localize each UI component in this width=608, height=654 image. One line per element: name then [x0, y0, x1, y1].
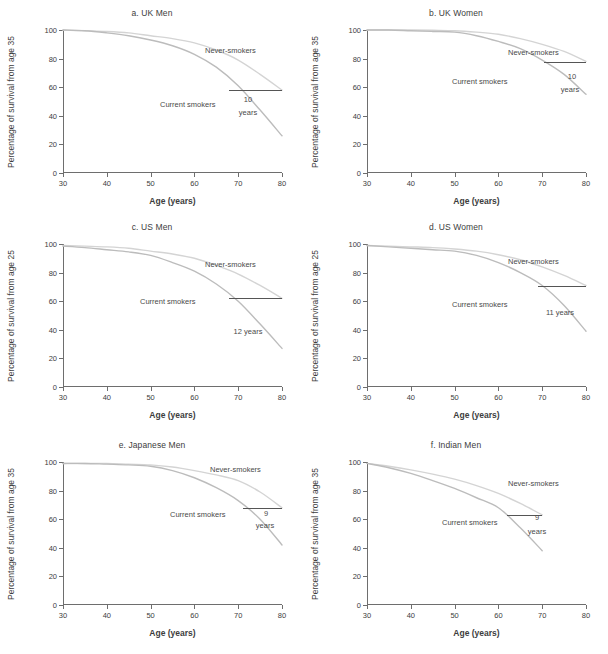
- x-tick-label-a-30: 30: [59, 179, 67, 188]
- x-tick-d-70: [542, 387, 543, 391]
- x-tick-b-70: [542, 173, 543, 177]
- y-tick-label-a-0: 0: [53, 169, 57, 178]
- x-tick-b-40: [411, 173, 412, 177]
- x-tick-label-f-70: 70: [538, 611, 546, 620]
- x-tick-d-60: [498, 387, 499, 391]
- x-tick-label-d-50: 50: [450, 393, 458, 402]
- x-tick-a-30: [63, 173, 64, 177]
- x-tick-label-e-60: 60: [190, 611, 198, 620]
- y-tick-label-c-40: 40: [49, 325, 57, 334]
- x-tick-b-30: [367, 173, 368, 177]
- y-tick-label-c-80: 80: [49, 268, 57, 277]
- panel-f: f. Indian MenPercentage of survival from…: [304, 432, 608, 650]
- x-tick-label-d-30: 30: [363, 393, 371, 402]
- y-tick-label-e-60: 60: [49, 515, 57, 524]
- x-tick-d-30: [367, 387, 368, 391]
- x-tick-e-60: [194, 605, 195, 609]
- annotation-gap-years-d: 11 years: [546, 308, 574, 317]
- x-tick-d-80: [586, 387, 587, 391]
- x-tick-label-c-70: 70: [234, 393, 242, 402]
- panel-title-c: c. US Men: [0, 222, 304, 232]
- x-tick-c-60: [194, 387, 195, 391]
- y-tick-label-e-100: 100: [44, 458, 57, 467]
- y-tick-label-b-0: 0: [357, 169, 361, 178]
- x-tick-a-80: [282, 173, 283, 177]
- x-tick-label-f-40: 40: [407, 611, 415, 620]
- y-tick-label-c-0: 0: [53, 383, 57, 392]
- x-tick-e-40: [107, 605, 108, 609]
- x-tick-label-b-50: 50: [450, 179, 458, 188]
- plot-area-e: 020406080100304050607080: [63, 462, 282, 605]
- x-tick-f-70: [542, 605, 543, 609]
- annotation-never-smokers-f: Never-smokers: [508, 479, 559, 488]
- x-tick-f-50: [455, 605, 456, 609]
- x-tick-f-40: [411, 605, 412, 609]
- gap-indicator-line-c: [229, 298, 282, 299]
- x-tick-label-c-60: 60: [190, 393, 198, 402]
- gap-indicator-line-a: [229, 90, 282, 91]
- y-tick-label-f-40: 40: [353, 543, 361, 552]
- x-tick-label-e-50: 50: [146, 611, 154, 620]
- panel-b: b. UK WomenPercentage of survival from a…: [304, 0, 608, 218]
- y-tick-label-a-40: 40: [49, 111, 57, 120]
- y-tick-label-e-80: 80: [49, 486, 57, 495]
- annotation-never-smokers-e: Never-smokers: [210, 465, 261, 474]
- y-tick-label-a-20: 20: [49, 140, 57, 149]
- y-axis-label-f: Percentage of survival from age 35: [309, 462, 321, 605]
- y-tick-label-b-100: 100: [348, 26, 361, 35]
- x-tick-label-b-30: 30: [363, 179, 371, 188]
- x-tick-d-50: [455, 387, 456, 391]
- y-tick-label-b-40: 40: [353, 111, 361, 120]
- x-tick-label-a-40: 40: [103, 179, 111, 188]
- y-tick-label-f-80: 80: [353, 486, 361, 495]
- x-tick-label-b-70: 70: [538, 179, 546, 188]
- annotation-gap-unit-e: years: [256, 521, 274, 530]
- x-tick-label-e-70: 70: [234, 611, 242, 620]
- panel-title-e: e. Japanese Men: [0, 440, 304, 450]
- annotation-current-smokers-a: Current smokers: [160, 100, 215, 109]
- x-tick-e-80: [282, 605, 283, 609]
- annotation-gap-years-b: 10: [568, 72, 576, 81]
- y-tick-label-a-80: 80: [49, 54, 57, 63]
- annotation-current-smokers-f: Current smokers: [442, 518, 497, 527]
- annotation-gap-years-f: 9: [535, 513, 539, 522]
- y-tick-label-d-20: 20: [353, 354, 361, 363]
- curve-e-current-smokers: [63, 463, 282, 545]
- x-tick-f-80: [586, 605, 587, 609]
- y-tick-label-c-20: 20: [49, 354, 57, 363]
- y-tick-label-d-60: 60: [353, 297, 361, 306]
- x-tick-label-c-80: 80: [278, 393, 286, 402]
- x-tick-b-50: [455, 173, 456, 177]
- x-tick-d-40: [411, 387, 412, 391]
- x-tick-e-30: [63, 605, 64, 609]
- x-tick-e-50: [151, 605, 152, 609]
- x-tick-a-40: [107, 173, 108, 177]
- x-tick-label-a-60: 60: [190, 179, 198, 188]
- curve-c-never-smokers: [63, 245, 282, 298]
- y-tick-label-e-40: 40: [49, 543, 57, 552]
- x-axis-label-e: Age (years): [63, 628, 282, 638]
- gap-indicator-line-d: [538, 286, 586, 287]
- annotation-gap-unit-f: years: [528, 527, 546, 536]
- x-tick-label-c-30: 30: [59, 393, 67, 402]
- curves-e: [63, 462, 282, 605]
- x-tick-a-60: [194, 173, 195, 177]
- x-axis-label-d: Age (years): [367, 410, 586, 420]
- x-tick-label-f-60: 60: [494, 611, 502, 620]
- x-tick-label-c-40: 40: [103, 393, 111, 402]
- x-tick-label-d-70: 70: [538, 393, 546, 402]
- x-tick-a-70: [238, 173, 239, 177]
- annotation-never-smokers-b: Never-smokers: [508, 48, 559, 57]
- x-tick-c-30: [63, 387, 64, 391]
- y-axis-label-b: Percentage of survival from age 35: [309, 30, 321, 173]
- y-tick-label-f-60: 60: [353, 515, 361, 524]
- x-tick-label-a-70: 70: [234, 179, 242, 188]
- x-tick-b-80: [586, 173, 587, 177]
- x-tick-f-30: [367, 605, 368, 609]
- panel-title-d: d. US Women: [304, 222, 608, 232]
- annotation-gap-years-a: 10: [244, 95, 252, 104]
- y-axis-label-d: Percentage of survival from age 25: [309, 244, 321, 387]
- annotation-never-smokers-d: Never-smokers: [508, 257, 559, 266]
- x-tick-label-d-40: 40: [407, 393, 415, 402]
- panel-title-b: b. UK Women: [304, 8, 608, 18]
